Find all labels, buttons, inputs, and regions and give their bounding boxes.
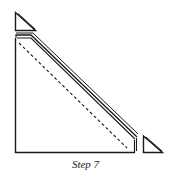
small-triangle-top-left	[16, 13, 36, 31]
step-7-diagram	[0, 0, 171, 180]
small-triangle-bottom-right	[144, 136, 163, 153]
figure-caption: Step 7	[0, 158, 171, 170]
fold-dashed-line	[19, 43, 127, 148]
diagram-canvas	[0, 0, 171, 180]
large-right-triangle	[16, 38, 137, 153]
hypotenuse-double-edge	[16, 33, 138, 139]
